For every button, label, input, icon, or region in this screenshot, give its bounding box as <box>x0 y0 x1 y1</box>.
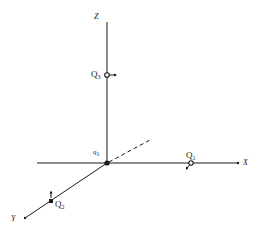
y-axis-label: Y <box>11 215 15 223</box>
q2-marker <box>49 199 53 203</box>
y-axis <box>25 163 107 218</box>
q2-label-sub: 2 <box>62 204 65 210</box>
origin-point <box>104 160 109 165</box>
z-axis-label: Z <box>94 13 98 21</box>
origin-label: q1 <box>93 149 100 157</box>
dashed-line <box>109 140 150 162</box>
q3-label: Q3 <box>91 70 101 80</box>
q3-label-sub: 3 <box>98 74 101 80</box>
q3-marker <box>105 73 110 78</box>
y-axis-end-dot <box>24 217 26 219</box>
q1-label-sub: 1 <box>193 155 196 161</box>
q1-marker <box>189 161 193 165</box>
q1-label: Q1 <box>186 151 196 161</box>
q2-arrowhead-icon <box>50 191 53 194</box>
axes-drawing <box>0 0 272 235</box>
x-axis-label: X <box>243 159 248 167</box>
origin-label-sub: 1 <box>97 151 100 157</box>
q2-label: Q2 <box>55 200 65 210</box>
coordinate-diagram: Z X Y q1 Q3 Q1 Q2 <box>0 0 272 235</box>
q3-arrowhead-icon <box>114 74 117 77</box>
x-axis-end-dot <box>237 162 239 164</box>
